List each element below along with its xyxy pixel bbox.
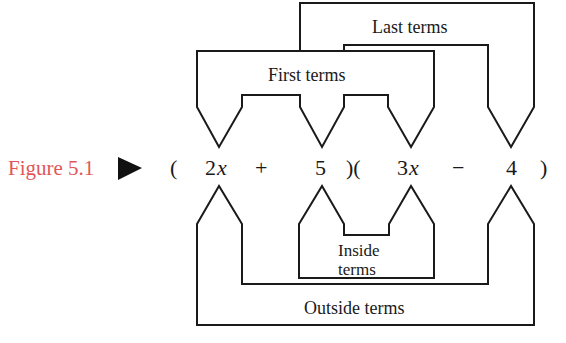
inside-terms-bracket: Inside terms [299,186,434,279]
term-3x-variable: x [408,155,419,180]
open-paren-1: ( [170,155,177,180]
term-4: 4 [506,155,517,180]
inside-terms-label-line2: terms [338,260,376,279]
figure-label: Figure 5.1 [8,156,94,180]
term-5: 5 [315,155,326,180]
first-terms-bracket: First terms [197,51,434,147]
last-terms-label: Last terms [372,17,447,37]
term-3x-coefficient: 3 [397,155,408,180]
right-triangle-pointer-icon [118,157,142,180]
first-terms-label: First terms [268,65,346,85]
close-open-paren: )( [346,155,361,180]
inside-terms-label-line1: Inside [338,241,380,260]
operator-minus: − [452,155,464,180]
outside-terms-label: Outside terms [304,298,405,318]
foil-diagram: Last terms First terms Inside terms Outs… [0,0,566,343]
expression: ( 2 x + 5 )( 3 x − 4 ) [170,155,547,180]
term-2x-coefficient: 2 [205,155,216,180]
close-paren-2: ) [540,155,547,180]
operator-plus: + [255,155,267,180]
term-2x-variable: x [216,155,227,180]
